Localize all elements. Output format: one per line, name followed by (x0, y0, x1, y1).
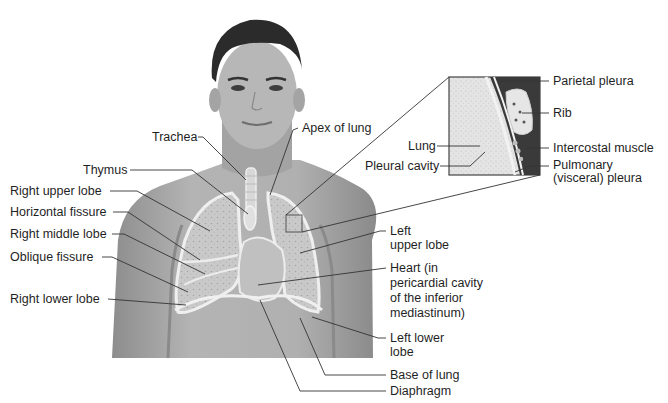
label-horizontal-fissure: Horizontal fissure (10, 205, 107, 219)
illustration (0, 0, 668, 403)
label-oblique-fissure: Oblique fissure (10, 250, 93, 264)
label-pulmonary-visceral-pleura: Pulmonary (visceral) pleura (553, 159, 642, 185)
label-diaphragm: Diaphragm (390, 384, 451, 398)
label-heart: Heart (in pericardial cavity of the infe… (390, 261, 483, 321)
lung-anatomy-diagram: Trachea Thymus Right upper lobe Horizont… (0, 0, 668, 403)
label-parietal-pleura: Parietal pleura (553, 74, 634, 88)
label-rib: Rib (553, 106, 572, 120)
label-inset-lung: Lung (408, 139, 436, 153)
label-trachea: Trachea (152, 130, 197, 144)
label-left-upper-lobe: Left upper lobe (390, 224, 449, 252)
label-intercostal-muscle: Intercostal muscle (553, 141, 654, 155)
torso (112, 110, 376, 358)
label-thymus: Thymus (83, 163, 127, 177)
label-pleural-cavity: Pleural cavity (365, 159, 439, 173)
label-right-lower-lobe: Right lower lobe (10, 292, 100, 306)
label-right-middle-lobe: Right middle lobe (10, 227, 107, 241)
label-apex-of-lung: Apex of lung (302, 121, 372, 135)
label-left-lower-lobe: Left lower lobe (390, 331, 444, 359)
label-base-of-lung: Base of lung (390, 368, 460, 382)
label-right-upper-lobe: Right upper lobe (10, 184, 102, 198)
inset-pleura-detail (449, 77, 540, 175)
